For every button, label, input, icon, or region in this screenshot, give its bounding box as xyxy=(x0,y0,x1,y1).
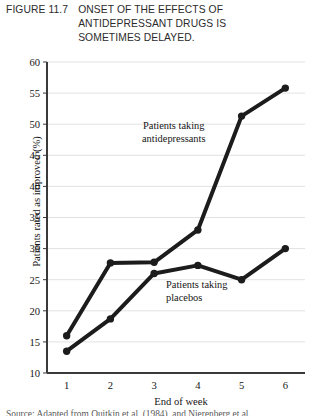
data-point-marker xyxy=(63,332,70,339)
series-label-placebos: Patients taking placebos xyxy=(166,279,227,304)
y-axis-title: Patients rated as improved (%) xyxy=(31,97,42,307)
x-axis-tick-label: 1 xyxy=(64,380,69,391)
data-point-marker xyxy=(238,112,245,119)
data-point-marker xyxy=(238,276,245,283)
series-label-placebos-line-1: Patients taking xyxy=(166,279,227,292)
series-label-antidepressants: Patients taking antidepressants xyxy=(142,120,205,145)
data-point-marker xyxy=(63,348,70,355)
data-point-marker xyxy=(107,259,114,266)
y-axis-tick-label: 15 xyxy=(29,337,40,348)
series-label-antidepressants-line-1: Patients taking xyxy=(142,120,205,133)
chart-container: 1015202530354045505560123456 Patients ra… xyxy=(0,0,317,416)
data-point-marker xyxy=(194,262,201,269)
data-point-marker xyxy=(194,226,201,233)
x-axis-tick-label: 5 xyxy=(239,380,244,391)
x-axis-tick-label: 3 xyxy=(151,380,156,391)
y-axis-tick-label: 60 xyxy=(29,57,40,68)
series-label-antidepressants-line-2: antidepressants xyxy=(142,133,205,146)
y-axis-tick-label: 10 xyxy=(29,368,40,379)
data-point-marker xyxy=(282,245,289,252)
data-point-marker xyxy=(150,270,157,277)
data-point-marker xyxy=(282,84,289,91)
x-axis-tick-label: 4 xyxy=(195,380,201,391)
x-axis-tick-label: 6 xyxy=(283,380,288,391)
data-point-marker xyxy=(150,259,157,266)
x-axis-tick-label: 2 xyxy=(108,380,113,391)
series-label-placebos-line-2: placebos xyxy=(166,292,227,305)
line-chart: 1015202530354045505560123456 xyxy=(0,0,317,416)
y-axis-tick-label: 20 xyxy=(29,306,40,317)
x-axis-title: End of week xyxy=(57,396,305,407)
data-point-marker xyxy=(107,315,114,322)
source-credit: Source: Adapted from Quitkin et al. (198… xyxy=(6,409,311,416)
